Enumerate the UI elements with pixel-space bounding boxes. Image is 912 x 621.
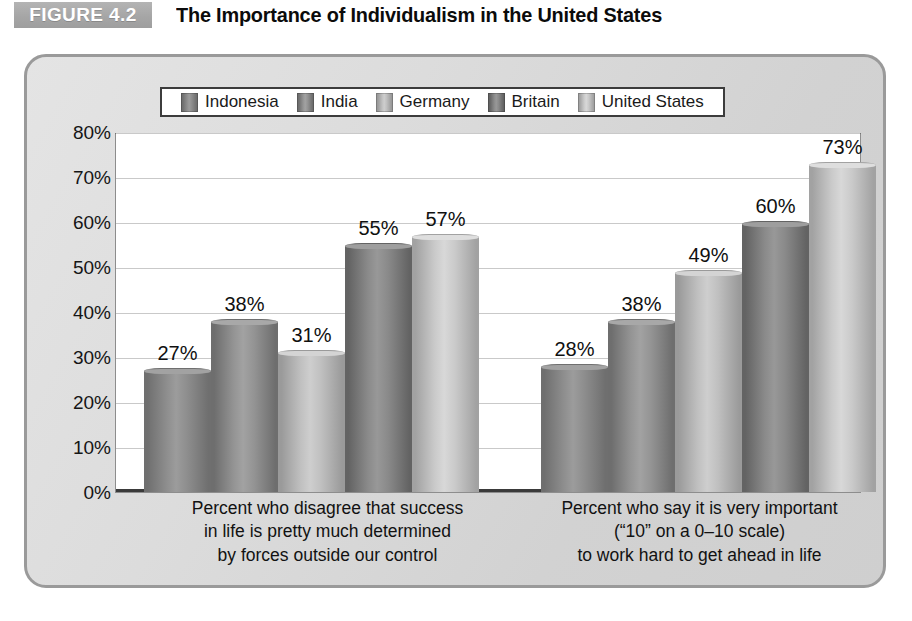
bar-cap: [608, 319, 675, 325]
category-caption-1: Percent who disagree that successin life…: [115, 497, 540, 567]
chart-legend: IndonesiaIndiaGermanyBritainUnited State…: [160, 87, 725, 117]
bar-united-states[interactable]: 57%: [412, 134, 479, 492]
bar-rect[interactable]: [675, 273, 742, 492]
bar-group-1: 27%38%31%55%57%: [144, 134, 479, 492]
legend-item-indonesia[interactable]: Indonesia: [181, 92, 279, 112]
bar-value-label: 38%: [621, 293, 661, 316]
legend-item-germany[interactable]: Germany: [376, 92, 470, 112]
bar-indonesia[interactable]: 28%: [541, 134, 608, 492]
legend-label: Britain: [512, 92, 560, 112]
bar-rect[interactable]: [742, 224, 809, 493]
bars-layer: 27%38%31%55%57%28%38%49%60%73%: [116, 134, 860, 492]
bar-value-label: 38%: [224, 293, 264, 316]
bar-cap: [144, 368, 211, 374]
bar-germany[interactable]: 49%: [675, 134, 742, 492]
legend-swatch-icon: [376, 93, 393, 112]
legend-label: Indonesia: [205, 92, 279, 112]
bar-rect[interactable]: [144, 371, 211, 492]
caption-line: (“10” on a 0–10 scale): [540, 520, 859, 543]
legend-label: United States: [602, 92, 704, 112]
bar-united-states[interactable]: 73%: [809, 134, 876, 492]
legend-label: India: [321, 92, 358, 112]
bar-cap: [211, 319, 278, 325]
caption-line: Percent who say it is very important: [540, 497, 859, 520]
legend-swatch-icon: [488, 93, 505, 112]
y-axis-tick-label: 0%: [49, 482, 111, 504]
bar-indonesia[interactable]: 27%: [144, 134, 211, 492]
y-axis-tick-label: 70%: [49, 167, 111, 189]
bar-value-label: 27%: [157, 342, 197, 365]
bar-cap: [412, 234, 479, 240]
bar-cap: [278, 350, 345, 356]
bar-cap: [675, 270, 742, 276]
bar-rect[interactable]: [345, 246, 412, 492]
bar-india[interactable]: 38%: [211, 134, 278, 492]
bar-value-label: 49%: [688, 244, 728, 267]
category-caption-2: Percent who say it is very important(“10…: [540, 497, 859, 567]
bar-britain[interactable]: 55%: [345, 134, 412, 492]
bar-germany[interactable]: 31%: [278, 134, 345, 492]
y-axis-tick-label: 80%: [49, 122, 111, 144]
bar-cap: [742, 221, 809, 227]
bar-value-label: 60%: [755, 195, 795, 218]
legend-swatch-icon: [181, 93, 198, 112]
chart-panel: IndonesiaIndiaGermanyBritainUnited State…: [24, 54, 886, 588]
legend-swatch-icon: [578, 93, 595, 112]
y-axis-tick-label: 10%: [49, 437, 111, 459]
bar-value-label: 31%: [291, 324, 331, 347]
bar-value-label: 55%: [358, 217, 398, 240]
bar-cap: [345, 243, 412, 249]
y-axis-tick-label: 20%: [49, 392, 111, 414]
bar-cap: [541, 364, 608, 370]
bar-india[interactable]: 38%: [608, 134, 675, 492]
bar-rect[interactable]: [608, 322, 675, 492]
bar-cap: [809, 162, 876, 168]
bar-value-label: 28%: [554, 338, 594, 361]
bar-rect[interactable]: [211, 322, 278, 492]
figure-header: FIGURE 4.2 The Importance of Individuali…: [0, 0, 912, 40]
bar-group-2: 28%38%49%60%73%: [541, 134, 876, 492]
bar-rect[interactable]: [278, 353, 345, 492]
legend-label: Germany: [400, 92, 470, 112]
legend-item-united-states[interactable]: United States: [578, 92, 704, 112]
legend-item-india[interactable]: India: [297, 92, 358, 112]
figure-title: The Importance of Individualism in the U…: [176, 2, 662, 28]
bar-rect[interactable]: [809, 165, 876, 492]
category-captions: Percent who disagree that successin life…: [115, 497, 861, 567]
legend-swatch-icon: [297, 93, 314, 112]
bar-rect[interactable]: [541, 367, 608, 492]
caption-line: in life is pretty much determined: [115, 520, 540, 543]
bar-value-label: 73%: [822, 136, 862, 159]
caption-line: by forces outside our control: [115, 544, 540, 567]
caption-line: to work hard to get ahead in life: [540, 544, 859, 567]
figure-number-badge: FIGURE 4.2: [14, 2, 152, 28]
y-axis-tick-label: 50%: [49, 257, 111, 279]
y-axis-tick-label: 60%: [49, 212, 111, 234]
legend-item-britain[interactable]: Britain: [488, 92, 560, 112]
y-axis: 0%10%20%30%40%50%60%70%80%: [41, 133, 111, 493]
bar-value-label: 57%: [425, 208, 465, 231]
caption-line: Percent who disagree that success: [115, 497, 540, 520]
y-axis-tick-label: 30%: [49, 347, 111, 369]
bar-britain[interactable]: 60%: [742, 134, 809, 492]
y-axis-tick-label: 40%: [49, 302, 111, 324]
bar-rect[interactable]: [412, 237, 479, 492]
